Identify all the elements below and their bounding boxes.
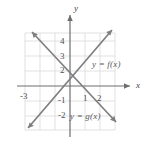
y-axis-label: y [74, 4, 78, 13]
x-tick-neg3: -3 [20, 92, 28, 101]
x-tick-1: 1 [83, 94, 88, 103]
y-tick-neg2: -2 [58, 111, 66, 120]
y-tick-2: 2 [60, 66, 65, 75]
graph-figure: y x 4 3 2 -1 -2 1 2 -3 y = f(x) y = g(x) [0, 0, 149, 146]
y-tick-4: 4 [60, 37, 65, 46]
x-axis-label: x [136, 81, 140, 90]
curve-label-f: y = f(x) [92, 60, 121, 69]
y-tick-3: 3 [60, 52, 65, 61]
coordinate-plane [0, 0, 149, 146]
x-tick-2: 2 [97, 94, 102, 103]
curve-label-g: y = g(x) [70, 112, 101, 121]
x-axis [17, 83, 130, 89]
y-tick-neg1: -1 [58, 96, 66, 105]
